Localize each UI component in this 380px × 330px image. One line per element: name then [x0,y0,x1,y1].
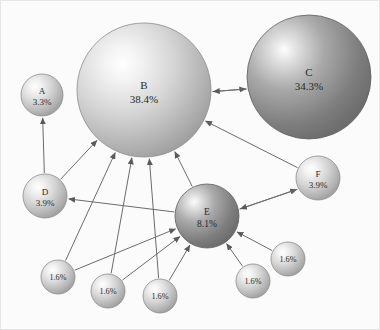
edge-S3-to-E [169,245,190,280]
edge-D-to-A [43,118,45,173]
node-circle [91,274,125,308]
node-S5[interactable]: 1.6% [271,242,305,276]
edge-S3-to-B [149,159,158,278]
network-diagram: A3.3%B38.4%C34.3%D3.9%E8.1%F3.9%1.6%1.6%… [0,0,380,330]
node-A[interactable]: A3.3% [21,74,63,116]
edge-S2-to-E [122,237,180,281]
node-layer: A3.3%B38.4%C34.3%D3.9%E8.1%F3.9%1.6%1.6%… [21,15,371,313]
node-F[interactable]: F3.9% [296,156,340,200]
node-circle [41,260,75,294]
node-D[interactable]: D3.9% [23,174,67,218]
node-circle [77,23,211,157]
edge-S1-to-B [66,153,116,261]
edge-E-to-B [175,152,192,187]
edge-E-to-D [69,199,174,212]
node-circle [21,74,63,116]
node-circle [175,184,239,248]
edge-D-to-B [61,140,97,179]
node-circle [23,174,67,218]
node-B[interactable]: B38.4% [77,23,211,157]
edge-C-to-B [213,89,246,92]
edge-S5-to-E [237,232,272,251]
node-C[interactable]: C34.3% [247,15,371,139]
edge-S2-to-B [111,158,132,273]
node-S1[interactable]: 1.6% [41,260,75,294]
diagram-canvas: A3.3%B38.4%C34.3%D3.9%E8.1%F3.9%1.6%1.6%… [0,0,380,330]
node-circle [271,242,305,276]
node-S2[interactable]: 1.6% [91,274,125,308]
node-S3[interactable]: 1.6% [143,279,177,313]
edge-F-to-E [240,189,297,209]
node-circle [236,264,270,298]
edge-S4-to-E [227,244,243,267]
node-circle [247,15,371,139]
node-S4[interactable]: 1.6% [236,264,270,298]
node-circle [143,279,177,313]
edge-S1-to-E [75,229,176,270]
node-circle [296,156,340,200]
node-E[interactable]: E8.1% [175,184,239,248]
